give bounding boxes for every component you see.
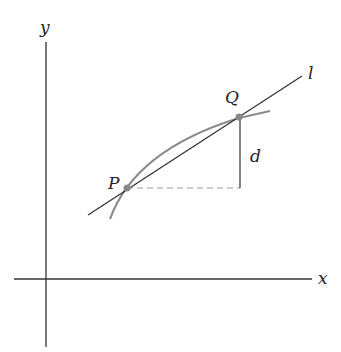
secant-line-l xyxy=(88,76,302,215)
diagram-svg: y x l P Q d xyxy=(0,0,341,352)
line-label: l xyxy=(308,63,313,83)
curve xyxy=(110,111,270,219)
point-q xyxy=(236,114,243,121)
point-p-label: P xyxy=(107,173,120,193)
point-q-label: Q xyxy=(225,87,239,107)
point-p xyxy=(124,185,131,192)
distance-label: d xyxy=(250,146,261,166)
y-axis-label: y xyxy=(39,17,50,37)
diagram: y x l P Q d xyxy=(0,0,341,352)
x-axis-label: x xyxy=(318,268,328,288)
